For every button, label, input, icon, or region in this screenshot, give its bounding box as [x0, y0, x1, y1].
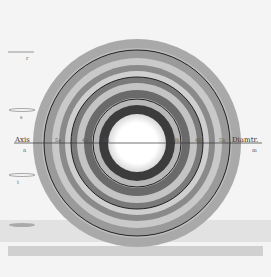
ring-mark: 5a: [55, 138, 61, 143]
ring-mark: 3a: [103, 138, 109, 143]
ring-mark: 4a: [82, 138, 88, 143]
side-lens-mark: [9, 174, 35, 177]
side-mark-label: r: [26, 56, 28, 61]
side-lens-mark: [9, 109, 35, 112]
axis-label: Axis: [15, 137, 30, 144]
diagram-canvas: Axis n Diamtr. m 5a 4a 3a 3b 4b 5b r s t: [0, 0, 271, 277]
side-mark-label: t: [17, 180, 19, 185]
concentric-rings-figure: [0, 0, 271, 277]
side-lens-mark: [9, 223, 35, 227]
ring-mark: 5b: [219, 138, 225, 143]
ring-mark: 4b: [195, 138, 201, 143]
axis-sub-label: n: [23, 148, 26, 153]
bottom-scale-strip: [8, 246, 263, 256]
side-mark-label: s: [20, 115, 23, 120]
diameter-sub-label: m: [252, 148, 257, 153]
ring-mark: 3b: [173, 138, 179, 143]
diameter-label: Diamtr.: [232, 137, 258, 144]
